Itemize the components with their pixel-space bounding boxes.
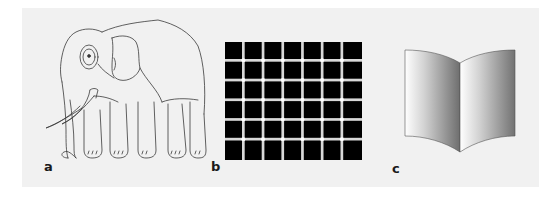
panel-label-b: b — [211, 160, 220, 173]
panel-label-c: c — [392, 162, 400, 175]
elephant-illustration — [40, 18, 210, 160]
ambiguous-book-illustration — [403, 48, 517, 154]
scintillating-grid — [225, 42, 362, 160]
panel-label-a: a — [44, 160, 53, 173]
